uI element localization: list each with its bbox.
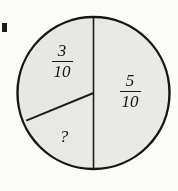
label-unknown-fraction: ?: [54, 128, 74, 145]
fraction-numerator: 3: [52, 42, 73, 61]
fraction-numerator: 5: [120, 72, 141, 91]
pie-chart-figure: 3 10 5 10 ?: [0, 0, 178, 191]
label-five-tenths: 5 10: [112, 72, 148, 111]
fraction-five-tenths: 5 10: [120, 72, 141, 111]
fraction-three-tenths: 3 10: [52, 42, 73, 81]
pie-chart-svg: [0, 0, 178, 191]
fraction-denominator: 10: [120, 92, 141, 111]
fraction-denominator: 10: [52, 62, 73, 81]
label-three-tenths: 3 10: [44, 42, 80, 81]
